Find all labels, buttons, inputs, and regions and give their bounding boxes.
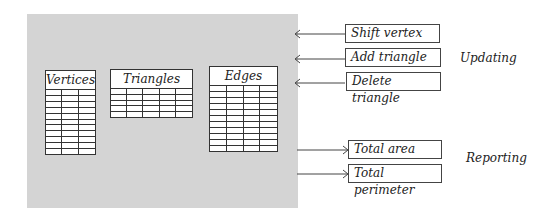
- reporting-label: Reporting: [466, 151, 527, 165]
- arrows-layer: [0, 0, 545, 217]
- delete-triangle-op: Delete triangle: [346, 72, 441, 91]
- shift-vertex-op: Shift vertex: [345, 24, 440, 43]
- add-triangle-op: Add triangle: [345, 48, 441, 67]
- updating-label: Updating: [460, 51, 517, 65]
- total-perimeter-op: Total perimeter: [348, 164, 442, 183]
- total-area-op: Total area: [348, 140, 442, 159]
